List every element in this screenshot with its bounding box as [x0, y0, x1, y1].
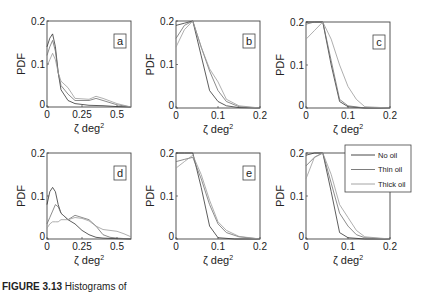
chart-panel-d: 00.250.500.10.2PDFζ deg2d	[15, 148, 131, 267]
panel-label: e	[246, 167, 252, 179]
y-axis-label: PDF	[15, 53, 27, 75]
chart-panel-f: 00.10.200.10.2PDFζ deg2No oilThin oilThi…	[274, 145, 411, 266]
y-axis-label: PDF	[274, 54, 286, 76]
chart-panel-b: 00.10.200.10.2PDFζ deg2b	[144, 16, 267, 136]
x-tick-label: 0	[173, 110, 179, 121]
y-tick-label: 0.2	[160, 148, 174, 159]
y-tick-label: 0.1	[290, 191, 304, 202]
y-axis-label: PDF	[144, 185, 156, 207]
panel-label: d	[117, 167, 123, 179]
x-tick-label: 0.25	[72, 109, 92, 120]
x-tick-label: 0.1	[341, 241, 355, 252]
y-tick-label: 0.2	[290, 148, 304, 159]
y-tick-label: 0.1	[31, 59, 45, 70]
legend-label: No oil	[378, 151, 398, 160]
x-axis-label: ζ deg2	[203, 123, 233, 135]
x-tick-label: 0.2	[253, 241, 267, 252]
y-tick-label: 0	[39, 99, 45, 110]
y-tick-label: 0	[298, 231, 304, 242]
x-tick-label: 0	[303, 241, 309, 252]
y-tick-label: 0.1	[160, 59, 174, 70]
x-tick-label: 0.1	[211, 110, 225, 121]
x-tick-label: 0	[303, 110, 309, 121]
x-tick-label: 0.2	[253, 110, 267, 121]
panel-label: a	[117, 35, 124, 47]
y-axis-label: PDF	[15, 185, 27, 207]
y-tick-label: 0	[298, 100, 304, 111]
y-tick-label: 0.1	[290, 60, 304, 71]
x-tick-label: 0.1	[341, 110, 355, 121]
x-axis-label: ζ deg2	[203, 254, 233, 266]
y-tick-label: 0	[168, 100, 174, 111]
y-tick-label: 0.1	[31, 191, 45, 202]
y-axis-label: PDF	[144, 53, 156, 75]
x-tick-label: 0	[44, 109, 50, 120]
x-axis-label: ζ deg2	[333, 123, 363, 135]
x-tick-label: 0	[44, 241, 50, 252]
x-axis-label: ζ deg2	[333, 254, 363, 266]
x-tick-label: 0.5	[110, 241, 124, 252]
y-tick-label: 0.2	[160, 16, 174, 27]
x-tick-label: 0.5	[110, 109, 124, 120]
x-axis-label: ζ deg2	[74, 254, 104, 266]
x-tick-label: 0.2	[383, 110, 397, 121]
y-tick-label: 0.1	[160, 191, 174, 202]
panels: 00.250.500.10.2PDFζ deg2a00.10.200.10.2P…	[15, 16, 411, 267]
y-tick-label: 0.2	[290, 17, 304, 28]
x-tick-label: 0.1	[211, 241, 225, 252]
chart-panel-e: 00.10.200.10.2PDFζ deg2e	[144, 148, 267, 267]
panel-label: c	[376, 36, 382, 48]
legend-label: Thin oil	[378, 165, 403, 174]
x-tick-label: 0.25	[72, 241, 92, 252]
chart-panel-c: 00.10.200.10.2PDFζ deg2c	[274, 17, 397, 136]
chart-panel-a: 00.250.500.10.2PDFζ deg2a	[15, 16, 131, 135]
caption-label: FIGURE 3.13	[2, 281, 62, 292]
y-axis-label: PDF	[274, 185, 286, 207]
legend: No oilThin oilThick oil	[345, 145, 411, 192]
x-tick-label: 0	[173, 241, 179, 252]
y-tick-label: 0	[168, 231, 174, 242]
y-tick-label: 0	[39, 231, 45, 242]
caption-text: Histograms of	[65, 281, 127, 292]
x-axis-label: ζ deg2	[74, 122, 104, 134]
legend-label: Thick oil	[378, 180, 406, 189]
x-tick-label: 0.2	[383, 241, 397, 252]
y-tick-label: 0.2	[31, 148, 45, 159]
figure-caption: FIGURE 3.13 Histograms of	[2, 281, 127, 292]
panel-label: b	[246, 35, 252, 47]
y-tick-label: 0.2	[31, 16, 45, 27]
